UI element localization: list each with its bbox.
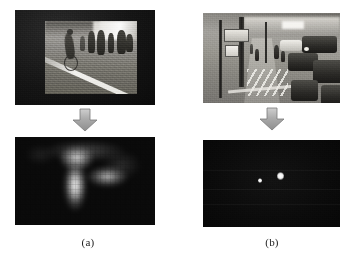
scan-streak <box>203 170 340 171</box>
pedestrian <box>97 30 105 55</box>
shop-light <box>282 21 304 29</box>
pedestrian <box>250 44 253 54</box>
down-arrow-icon-a <box>72 108 98 132</box>
figure-root: (a) <box>0 0 360 260</box>
input-image-a <box>15 10 155 105</box>
input-image-a-photo <box>45 21 137 94</box>
pedestrian <box>255 49 259 61</box>
pole <box>265 22 268 63</box>
caption-a: (a) <box>68 236 108 248</box>
pixelation-grid <box>15 137 155 225</box>
street-sign <box>224 29 249 42</box>
pedestrian <box>126 34 133 52</box>
pedestrian <box>108 33 114 53</box>
vehicle <box>291 80 318 102</box>
white-car <box>280 40 302 51</box>
zigzag-road-marking <box>247 69 288 96</box>
scan-streak <box>203 189 340 190</box>
detection-background <box>203 140 340 227</box>
scan-streak <box>203 204 340 205</box>
pedestrian <box>117 30 126 54</box>
vehicle <box>321 85 340 103</box>
output-detection-map-b <box>203 140 340 227</box>
output-heatmap-a <box>15 137 155 225</box>
input-image-b <box>203 13 340 103</box>
caption-b: (b) <box>252 236 292 248</box>
pedestrian <box>274 45 279 59</box>
pedestrian <box>88 31 95 53</box>
pedestrian <box>80 36 85 51</box>
down-arrow-icon-b <box>259 107 285 131</box>
signpost <box>219 20 222 97</box>
street-sign <box>225 45 239 57</box>
lamp-post <box>239 17 244 87</box>
pedestrian <box>281 51 285 62</box>
